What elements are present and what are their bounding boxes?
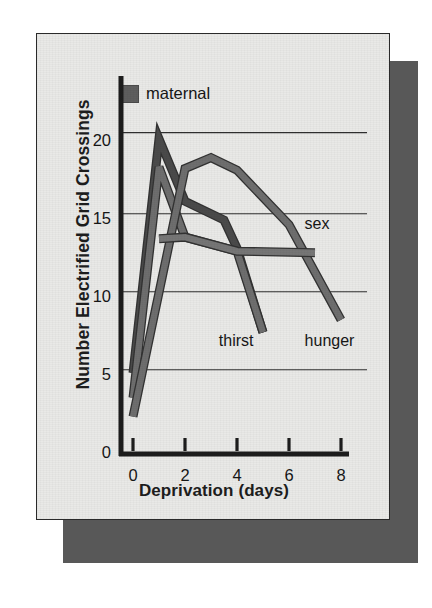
x-tick-label: 0 (116, 466, 150, 485)
series-annotation-sex: sex (305, 215, 330, 233)
y-tick-label: 20 (71, 131, 111, 150)
x-tick-marks-group (133, 438, 341, 451)
chart-card: Number Electrified Grid Crossings Depriv… (36, 33, 390, 520)
y-tick-label: 0 (71, 443, 111, 462)
series-annotation-thirst: thirst (219, 332, 254, 350)
x-tick-label: 6 (272, 466, 306, 485)
series-line-hunger-outline (133, 158, 341, 417)
series-annotation-hunger: hunger (305, 332, 355, 350)
y-tick-label: 10 (71, 287, 111, 306)
x-tick-label: 8 (324, 466, 358, 485)
y-tick-label: 5 (71, 365, 111, 384)
series-lines-group (133, 139, 341, 417)
x-tick-label: 4 (220, 466, 254, 485)
figure-root: Number Electrified Grid Crossings Depriv… (0, 0, 432, 608)
x-tick-label: 2 (168, 466, 202, 485)
y-tick-label: 15 (71, 209, 111, 228)
plot-area: Number Electrified Grid Crossings Depriv… (37, 34, 391, 521)
